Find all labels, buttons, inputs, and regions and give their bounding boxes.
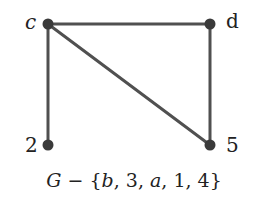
edges xyxy=(48,24,210,145)
graph-caption: G − {b, 3, a, 1, 4} xyxy=(33,171,235,190)
node-c xyxy=(43,19,54,30)
node-5 xyxy=(205,140,216,151)
node-label-d: d xyxy=(226,11,239,31)
caption-set-close: } xyxy=(210,169,222,191)
node-2 xyxy=(43,140,54,151)
caption-removed-3: 3 xyxy=(126,169,138,191)
caption-set-open: { xyxy=(89,169,101,191)
caption-removed-a: a xyxy=(150,169,161,191)
node-label-5: 5 xyxy=(226,135,239,155)
caption-removed-b: b xyxy=(102,169,114,191)
node-d xyxy=(205,19,216,30)
node-label-c: c xyxy=(25,12,36,32)
caption-removed-1: 1 xyxy=(173,169,185,191)
caption-graph-symbol: G xyxy=(46,169,61,191)
node-label-2: 2 xyxy=(25,135,38,155)
caption-minus: − xyxy=(67,169,83,191)
edge-c-5 xyxy=(48,24,210,145)
caption-removed-4: 4 xyxy=(198,169,210,191)
